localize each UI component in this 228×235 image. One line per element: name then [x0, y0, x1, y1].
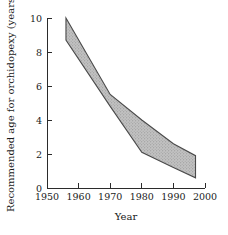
x-tick-label: 1950	[35, 191, 59, 202]
x-tick-label: 1990	[161, 191, 185, 202]
shaded-age-band	[66, 18, 196, 178]
x-tick-label: 1980	[130, 191, 154, 202]
x-axis-ticks	[47, 183, 205, 188]
y-axis-title: Recommended age for orchidopexy (years)	[5, 0, 16, 212]
x-tick-label: 1960	[67, 191, 91, 202]
x-axis-tick-labels: 1950 1960 1970 1980 1990 2000	[35, 191, 217, 202]
y-tick-label: 6	[36, 81, 42, 92]
y-axis-tick-labels: 0 2 4 6 8 10	[30, 13, 42, 194]
y-tick-label: 10	[30, 13, 42, 24]
y-tick-label: 2	[36, 149, 42, 160]
chart-figure: 0 2 4 6 8 10 1950 1960 1970 1980 1990 20…	[0, 0, 228, 235]
x-tick-label: 1970	[98, 191, 122, 202]
chart-plot-area: 0 2 4 6 8 10 1950 1960 1970 1980 1990 20…	[0, 0, 228, 235]
y-axis-ticks	[47, 18, 52, 188]
x-tick-label: 2000	[193, 191, 217, 202]
y-tick-label: 8	[36, 47, 42, 58]
x-axis-title: Year	[114, 211, 138, 222]
y-tick-label: 4	[36, 115, 42, 126]
